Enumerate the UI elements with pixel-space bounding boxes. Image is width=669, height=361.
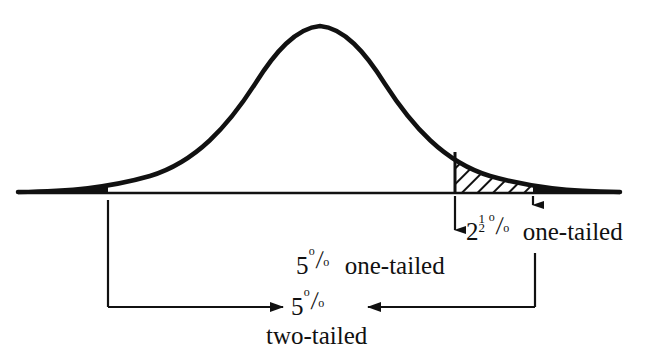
label-5-percent-one-tailed-value: 5 <box>296 252 309 279</box>
label-two-tailed-value: 5 <box>291 293 304 320</box>
fraction-one-half: 12 <box>479 215 489 240</box>
label-5-percent-two-tailed-value: 5/oo <box>291 290 327 319</box>
distribution-chart-svg <box>0 0 669 361</box>
normal-distribution-figure: 5/oo one-tailed 212/oo one-tailed 5/oo t… <box>0 0 669 361</box>
normal-curve <box>18 26 620 192</box>
percent-sign-icon: /oo <box>304 290 327 315</box>
label-5-percent-one-tailed-text: one-tailed <box>345 252 445 279</box>
label-2-5-percent-one-tailed-text: one-tailed <box>523 218 623 245</box>
fraction-denominator: 2 <box>479 221 486 234</box>
percent-sign-icon: /oo <box>489 215 512 240</box>
label-2-5-percent-one-tailed: 212/oo one-tailed <box>466 215 623 244</box>
region-right-tail-hatched <box>455 140 533 200</box>
label-two-tailed-text: two-tailed <box>266 323 367 348</box>
label-5-percent-one-tailed: 5/oo one-tailed <box>296 249 445 278</box>
percent-sign-icon: /oo <box>309 249 332 274</box>
tail-regions <box>10 140 628 200</box>
label-2-5-whole: 2 <box>466 218 479 245</box>
